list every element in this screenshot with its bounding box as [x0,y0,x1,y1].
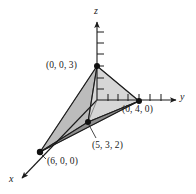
vertex-label-5-3-2: (5, 3, 2) [92,141,123,151]
vertex-dot-003 [94,63,100,69]
vertex-label-6-0-0: (6, 0, 0) [47,157,78,167]
leader-line-532 [89,125,96,138]
vertex-dot-532 [85,119,91,125]
axis-label-z: z [94,6,98,16]
coordinate-diagram-svg [0,0,196,194]
vertex-dot-600 [37,149,43,155]
vertex-label-0-0-3: (0, 0, 3) [46,61,77,71]
vertex-label-0-4-0: (0, 4, 0) [122,105,153,115]
axis-label-y: y [180,92,184,102]
figure-container: (0, 0, 3) (0, 4, 0) (6, 0, 0) (5, 3, 2) … [0,0,196,194]
axis-label-x: x [9,174,13,184]
